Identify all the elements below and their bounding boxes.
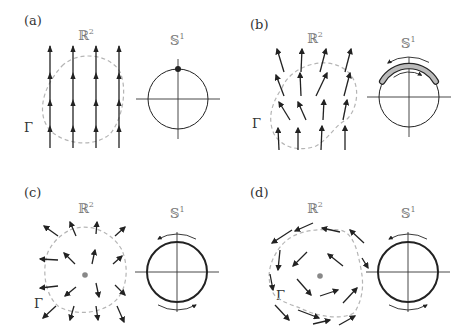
gamma-label: Γ — [252, 116, 261, 131]
panel-label: (b) — [250, 17, 268, 32]
vector-arrow — [343, 100, 347, 120]
vector-arrow — [343, 288, 357, 303]
circle-label-s1: 𝕊1 — [401, 35, 415, 51]
plane-label-r2: ℝ2 — [78, 200, 94, 216]
vector-arrow — [362, 258, 368, 268]
arrowhead-icon — [70, 99, 75, 106]
plane-label-r2: ℝ2 — [78, 27, 94, 43]
gamma-dashed-curve — [271, 63, 357, 149]
vector-arrow — [96, 222, 97, 234]
vector-arrow — [113, 256, 122, 264]
vector-arrow — [43, 306, 56, 318]
circle-label-s1: 𝕊1 — [170, 205, 184, 221]
arrowhead-icon — [116, 72, 121, 79]
vector-arrow — [275, 305, 289, 320]
vector-arrow — [345, 49, 351, 72]
panel-label: (a) — [24, 13, 42, 28]
vector-arrow — [96, 306, 98, 320]
vector-arrow — [272, 230, 292, 243]
panel-label: (d) — [250, 185, 268, 200]
arrowhead-icon — [93, 45, 98, 52]
vector-arrow — [316, 73, 327, 96]
vector-arrow — [298, 102, 306, 120]
arrowhead-icon — [116, 45, 121, 52]
circle-s1 — [136, 59, 220, 139]
vector-arrow — [277, 49, 284, 72]
vector-arrow — [313, 320, 330, 324]
arrowhead-icon — [93, 125, 98, 132]
vector-arrow — [70, 222, 76, 236]
panel-c: (c)ℝ2𝕊1Γ — [24, 185, 219, 322]
panel-d: (d)ℝ2𝕊1Γ — [250, 185, 450, 325]
vector-field — [276, 49, 351, 150]
vector-arrow — [328, 254, 343, 266]
vector-arrow — [117, 306, 124, 322]
vector-arrow — [279, 102, 290, 120]
vector-arrow — [350, 230, 364, 243]
vector-arrow — [321, 126, 322, 150]
panel-b: (b)ℝ2𝕊1Γ — [250, 17, 451, 150]
arrowhead-icon — [70, 125, 75, 132]
panel-a: (a)ℝ2𝕊1Γ — [24, 13, 220, 148]
arrowhead-icon — [47, 99, 52, 106]
arrowhead-icon — [93, 99, 98, 106]
vector-arrow — [278, 250, 280, 270]
circle-point — [175, 66, 181, 72]
gamma-dashed-curve — [45, 227, 126, 312]
arrowhead-icon — [116, 125, 121, 132]
plane-label-r2: ℝ2 — [307, 30, 323, 46]
arrowhead-icon — [116, 99, 121, 106]
vector-arrow — [44, 226, 58, 236]
vector-arrow — [115, 227, 125, 236]
arrowhead-icon — [70, 45, 75, 52]
vector-arrow — [344, 73, 350, 96]
gamma-label: Γ — [276, 288, 285, 303]
rotation-arrow-ccw — [388, 57, 429, 63]
vector-arrow — [320, 290, 338, 296]
circle-label-s1: 𝕊1 — [401, 205, 415, 221]
arrowhead-icon — [70, 72, 75, 79]
gamma-label: Γ — [24, 120, 33, 135]
vector-arrow — [40, 259, 58, 260]
arrowhead-icon — [93, 72, 98, 79]
singular-point — [317, 273, 323, 279]
circle-s1 — [367, 57, 451, 137]
arrowhead-icon — [47, 72, 52, 79]
panel-label: (c) — [24, 185, 41, 200]
figure-canvas: (a)ℝ2𝕊1Γ (b)ℝ2𝕊1Γ (c)ℝ2𝕊1Γ (d)ℝ2𝕊1Γ — [0, 0, 468, 335]
singular-point — [82, 272, 88, 278]
vector-arrow — [70, 306, 74, 320]
arrowhead-icon — [47, 45, 52, 52]
vector-arrow — [300, 73, 301, 96]
rotation-arrow-cw — [394, 72, 422, 77]
vector-arrow — [64, 253, 75, 264]
plane-label-r2: ℝ2 — [307, 200, 323, 216]
gamma-label: Γ — [34, 296, 43, 311]
vector-arrow — [298, 310, 319, 318]
vector-arrow — [339, 316, 355, 325]
vector-arrow — [320, 49, 326, 72]
vector-arrow — [293, 252, 307, 266]
vector-arrow — [40, 286, 58, 288]
vector-field — [40, 222, 125, 322]
circle-label-s1: 𝕊1 — [170, 32, 184, 48]
circle-s1 — [135, 232, 219, 312]
vector-arrow — [278, 128, 279, 150]
vector-arrow — [92, 250, 95, 264]
gamma-dashed-curve — [43, 56, 124, 143]
circle-s1 — [366, 232, 450, 312]
vector-arrow — [96, 283, 99, 297]
gamma-dashed-curve — [269, 230, 362, 317]
vector-arrow — [323, 100, 324, 120]
vector-arrow — [65, 287, 76, 296]
vector-arrow — [295, 223, 313, 231]
vector-arrow — [297, 279, 311, 295]
